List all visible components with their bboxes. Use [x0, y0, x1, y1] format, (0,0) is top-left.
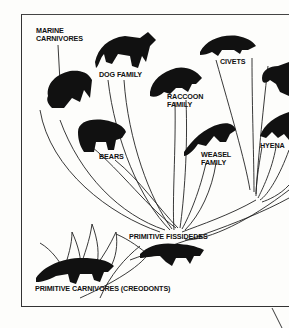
label-dog-family: DOG FAMILY	[99, 71, 142, 79]
civet-icon	[200, 36, 256, 56]
fox-icon	[95, 32, 156, 68]
fissiped-icon	[140, 243, 204, 266]
carnivore-evolution-diagram: MARINE CARNIVORES DOG FAMILY CIVETS RACC…	[0, 0, 289, 328]
label-line: CARNIVORES	[36, 35, 83, 43]
creodont-icon	[36, 258, 114, 284]
label-line: FAMILY	[201, 159, 231, 167]
label-weasel-family: WEASEL FAMILY	[201, 151, 231, 166]
label-raccoon-family: RACCOON FAMILY	[167, 93, 203, 108]
label-civets: CIVETS	[220, 58, 245, 66]
bear-icon	[78, 120, 126, 153]
animal-silhouettes	[0, 0, 289, 328]
label-primitive-fissidedes: PRIMITIVE FISSIDEDES	[129, 233, 208, 241]
label-line: FAMILY	[167, 101, 203, 109]
walrus-icon	[47, 71, 92, 108]
label-primitive-carnivores: PRIMITIVE CARNIVORES (CREODONTS)	[35, 285, 170, 293]
label-bears: BEARS	[99, 153, 124, 161]
label-hyena: HYENA	[260, 142, 285, 150]
hyena-icon	[260, 112, 289, 140]
cat-icon	[262, 62, 289, 96]
label-marine-carnivores: MARINE CARNIVORES	[36, 27, 83, 42]
